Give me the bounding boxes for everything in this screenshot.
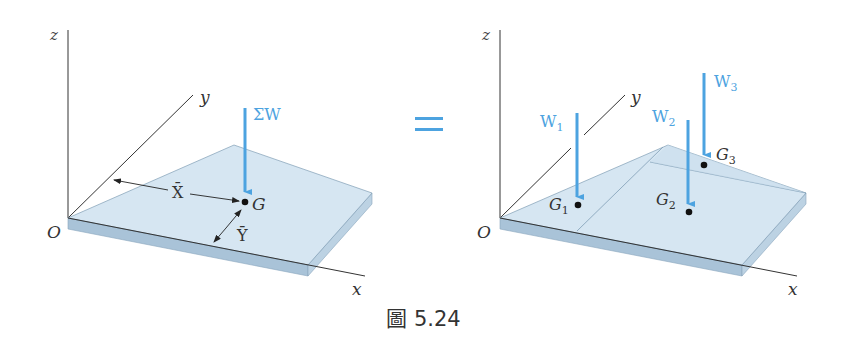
svg-text:G3: G3: [716, 145, 736, 167]
right-panel: [500, 30, 806, 276]
svg-text:W1: W1: [540, 112, 563, 134]
resultant-force-label: ΣW: [253, 105, 281, 124]
svg-text:W2: W2: [652, 107, 675, 129]
left-panel: [68, 30, 372, 276]
diagram-canvas: z y x O ΣW G X̄ Ȳ z y x O W1 W2 W3 G1 G2…: [0, 0, 847, 346]
y-axis-upper: [584, 95, 625, 135]
centroid-point: [242, 199, 249, 206]
origin-label: O: [47, 222, 61, 242]
centroid-g2: [686, 209, 693, 216]
centroid-label-g3: G3: [716, 145, 736, 167]
origin-label: O: [477, 222, 491, 242]
z-axis-label: z: [49, 26, 58, 44]
y-axis-label: y: [630, 87, 641, 107]
centroid-g3: [701, 162, 708, 169]
x-axis-label: x: [788, 279, 798, 299]
force-label-w3: W3: [714, 72, 737, 94]
equals-sign: [415, 117, 443, 131]
force-label-w2: W2: [652, 107, 675, 129]
y-axis-label: y: [199, 87, 210, 107]
force-label-w1: W1: [540, 112, 563, 134]
y-bar-label: Ȳ: [236, 225, 248, 245]
z-axis-label: z: [481, 26, 490, 44]
svg-text:W3: W3: [714, 72, 737, 94]
centroid-g1: [575, 202, 582, 209]
x-axis-label: x: [352, 279, 362, 299]
x-bar-label: X̄: [172, 181, 184, 202]
centroid-label: G: [252, 194, 266, 214]
figure-caption: 圖 5.24: [0, 302, 847, 332]
